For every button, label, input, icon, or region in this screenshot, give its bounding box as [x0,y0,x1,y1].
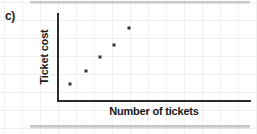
y-axis-label-text: Ticket cost [36,16,52,98]
x-axis-label: Number of tickets [58,104,250,118]
data-point [128,27,131,30]
figure-panel-c: c) Ticket cost Number of tickets [0,0,257,134]
data-point [85,70,88,73]
data-point [99,56,102,59]
part-label: c) [5,9,15,23]
bottom-edge-band [30,125,250,129]
top-edge-band [30,1,250,4]
y-axis-label: Ticket cost [36,0,52,16]
data-point [69,83,72,86]
data-point [113,44,116,47]
plot-area [58,13,250,101]
